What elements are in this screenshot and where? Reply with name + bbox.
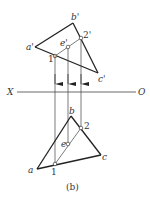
point-e-marker xyxy=(66,142,70,146)
label-a-prime: a' xyxy=(26,42,34,52)
label-2-prime: 2' xyxy=(83,30,91,40)
label-e-prime: e' xyxy=(60,38,68,48)
label-1-prime: 1' xyxy=(48,54,56,64)
label-b: b xyxy=(69,106,75,116)
label-c: c xyxy=(102,152,107,162)
projection-diagram: X O a' b' c' 2' e' 1' a b c 2 e xyxy=(0,0,150,197)
point-1-marker xyxy=(53,162,57,166)
axis-label-o: O xyxy=(138,87,146,97)
label-e: e xyxy=(61,139,66,149)
figure-caption: (b) xyxy=(66,182,79,192)
point-2-marker xyxy=(79,126,83,130)
label-c-prime: c' xyxy=(98,74,106,84)
axis-label-x: X xyxy=(6,87,14,97)
label-a: a xyxy=(28,165,33,175)
label-b-prime: b' xyxy=(71,12,79,22)
label-1: 1 xyxy=(51,167,57,177)
label-2: 2 xyxy=(84,121,90,131)
